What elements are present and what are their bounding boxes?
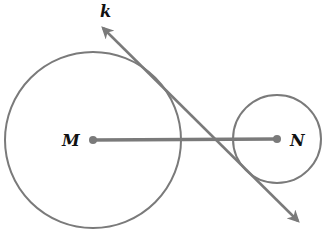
label-k: k: [100, 2, 111, 21]
segment-mn: [93, 139, 277, 140]
diagram-canvas: k M N: [0, 0, 326, 233]
point-m: [89, 136, 97, 144]
label-m: M: [61, 131, 81, 150]
line-k: [103, 28, 298, 221]
label-n: N: [289, 131, 306, 150]
point-n: [273, 135, 281, 143]
